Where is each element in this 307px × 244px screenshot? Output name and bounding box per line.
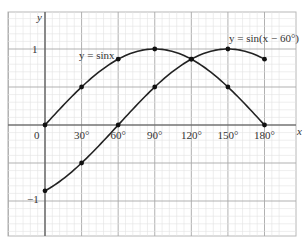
grid: [8, 12, 296, 236]
y-tick-1: 1: [32, 43, 38, 55]
data-point: [262, 123, 267, 128]
x-tick-label: 150°: [217, 129, 238, 141]
data-point: [226, 85, 231, 90]
data-point: [152, 47, 157, 52]
data-point: [262, 57, 267, 62]
x-tick-label: 180°: [254, 129, 275, 141]
data-point: [79, 161, 84, 166]
data-point: [226, 47, 231, 52]
data-point: [116, 57, 121, 62]
x-tick-label: 60°: [110, 129, 125, 141]
data-point: [43, 123, 48, 128]
y-axis-label: y: [36, 11, 42, 23]
sine-chart: y x 0 1 −1 y = sinx y = sin(x − 60°) 30°…: [0, 0, 307, 244]
x-tick-label: 120°: [181, 129, 202, 141]
origin-label: 0: [34, 129, 40, 141]
y-tick-minus-1: −1: [27, 193, 39, 205]
data-point: [79, 85, 84, 90]
x-axis-label: x: [296, 125, 302, 137]
data-point: [116, 123, 121, 128]
data-point: [43, 188, 48, 193]
series-label-sin-shift: y = sin(x − 60°): [229, 32, 299, 45]
data-point: [189, 57, 194, 62]
series-label-sinx: y = sinx: [79, 49, 115, 61]
x-tick-label: 30°: [74, 129, 89, 141]
x-tick-label: 90°: [147, 129, 162, 141]
data-point: [152, 85, 157, 90]
